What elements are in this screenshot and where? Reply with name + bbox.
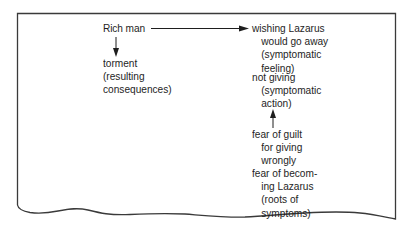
node-line: would go away — [252, 35, 328, 48]
node-line: action) — [252, 97, 321, 110]
arrow-down-icon — [113, 37, 119, 57]
node-symptomatic-feeling: wishing Lazarus would go away (symptomat… — [252, 22, 335, 75]
node-fear-of-becoming-lazarus: fear of becom- ing Lazarus (roots of sym… — [252, 167, 323, 220]
node-line: symptoms) — [252, 207, 317, 220]
node-rich-man: Rich man — [103, 22, 145, 35]
node-line: (roots of — [252, 193, 317, 206]
node-line: consequences) — [103, 83, 172, 96]
torn-page-frame — [0, 0, 410, 234]
node-line: (symptomatic — [252, 48, 328, 61]
node-fear-of-guilt: fear of guilt for giving wrongly — [252, 128, 307, 168]
node-torment: torment (resulting consequences) — [103, 57, 178, 97]
node-line: fear of becom- — [252, 167, 317, 180]
node-line: wrongly — [252, 154, 302, 167]
page-border — [18, 14, 396, 220]
node-line: not giving — [252, 71, 321, 84]
arrow-right-icon — [151, 26, 249, 32]
node-line: torment — [103, 57, 172, 70]
node-line: (resulting — [103, 70, 172, 83]
arrow-up-icon — [270, 109, 276, 128]
node-line: for giving — [252, 141, 302, 154]
node-line: fear of guilt — [252, 128, 302, 141]
node-line: wishing Lazarus — [252, 22, 328, 35]
node-line: (symptomatic — [252, 84, 321, 97]
node-symptomatic-action: not giving (symptomatic action) — [252, 71, 327, 111]
node-line: ing Lazarus — [252, 180, 317, 193]
